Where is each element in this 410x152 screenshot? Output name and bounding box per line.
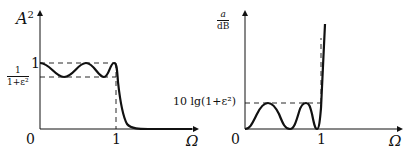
ripple-fraction-denominator: 1+ε² [7,78,29,87]
left-y-axis-label: A2 [16,10,34,27]
left-origin-label: 0 [26,132,35,146]
left-y-label-base: A [16,9,28,28]
right-plot [245,13,400,129]
left-x-tick-1: 1 [112,132,121,146]
left-y-tick-1: 1 [31,56,40,70]
left-y-tick-ripple: 1 1+ε² [7,66,29,87]
left-y-label-exp: 2 [28,9,34,20]
ripple-fraction-numerator: 1 [15,66,21,75]
left-plot [40,13,196,129]
right-x-tick-1: 1 [317,132,326,146]
diagram-canvas [0,0,410,152]
right-y-axis-label: a dB [217,10,229,31]
right-x-axis-label: Ω [389,134,401,149]
attenuation-symbol: a [221,10,226,19]
right-attenuation-curve [245,24,325,129]
right-y-tick-ripple: 10 lg(1+ε²) [173,96,236,107]
left-x-axis-label: Ω [186,134,198,149]
unit-db: dB [217,22,229,31]
right-origin-label: 0 [231,132,240,146]
